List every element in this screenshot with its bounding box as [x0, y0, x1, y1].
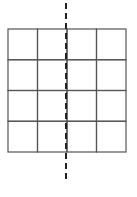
grid-cell: [38, 91, 68, 122]
grid-diagram: [0, 0, 137, 197]
grid-cell: [97, 29, 127, 60]
grid-cell: [97, 91, 127, 122]
grid-cell: [38, 121, 68, 152]
grid-cell: [97, 60, 127, 91]
grid-cell: [67, 121, 97, 152]
grid-cell: [8, 60, 38, 91]
grid-cell: [38, 29, 68, 60]
grid-cell: [67, 91, 97, 122]
grid-cell: [8, 91, 38, 122]
grid-cell: [67, 60, 97, 91]
grid-cell: [67, 29, 97, 60]
grid-cell: [8, 121, 38, 152]
grid-cell: [8, 29, 38, 60]
grid-cell: [97, 121, 127, 152]
grid-cell: [38, 60, 68, 91]
